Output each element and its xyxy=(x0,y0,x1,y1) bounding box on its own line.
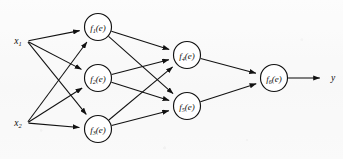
node-label-arg-f2: (e) xyxy=(96,74,106,84)
node-label-arg-f5: (e) xyxy=(185,102,195,112)
edge-f4-f6 xyxy=(201,59,256,74)
node-label-arg-f6: (e) xyxy=(272,74,282,84)
node-label-f5: f5(e) xyxy=(179,102,195,113)
node-label-arg-f1: (e) xyxy=(96,23,106,33)
node-label-f4: f4(e) xyxy=(179,51,195,62)
node-f5: f5(e) xyxy=(174,93,201,120)
output-label-y: y xyxy=(330,73,336,83)
node-f3: f3(e) xyxy=(85,116,112,143)
edge-x2-f2 xyxy=(28,88,82,122)
edge-x2-f3 xyxy=(28,123,79,127)
edge-f2-f5 xyxy=(111,82,169,100)
figure-canvas: f1(e)f2(e)f3(e)f4(e)f5(e)f6(e) x1x2y xyxy=(0,0,343,159)
node-f2: f2(e) xyxy=(85,65,112,92)
input-label-x2: x2 xyxy=(13,118,22,129)
input-label-sub-x2: 2 xyxy=(19,122,23,129)
input-label-sub-x1: 1 xyxy=(19,40,22,47)
edge-f1-f5 xyxy=(109,36,173,93)
node-f4: f4(e) xyxy=(174,42,201,69)
node-f1: f1(e) xyxy=(85,14,112,41)
node-label-f3: f3(e) xyxy=(90,125,106,136)
node-label-f2: f2(e) xyxy=(90,74,106,85)
edge-f3-f5 xyxy=(112,111,169,126)
node-f6: f6(e) xyxy=(261,65,288,92)
edge-f2-f4 xyxy=(112,60,169,75)
node-label-arg-f4: (e) xyxy=(185,51,195,61)
node-label-arg-f3: (e) xyxy=(96,125,106,135)
node-label-f1: f1(e) xyxy=(90,23,106,34)
node-label-f6: f6(e) xyxy=(266,74,282,85)
neural-network-diagram: f1(e)f2(e)f3(e)f4(e)f5(e)f6(e) x1x2y xyxy=(0,0,343,159)
edge-f5-f6 xyxy=(200,84,256,102)
edge-x2-f1 xyxy=(28,42,87,122)
input-label-x1: x1 xyxy=(13,36,21,47)
edge-x1-f1 xyxy=(28,31,79,41)
edge-x1-f2 xyxy=(28,42,81,70)
